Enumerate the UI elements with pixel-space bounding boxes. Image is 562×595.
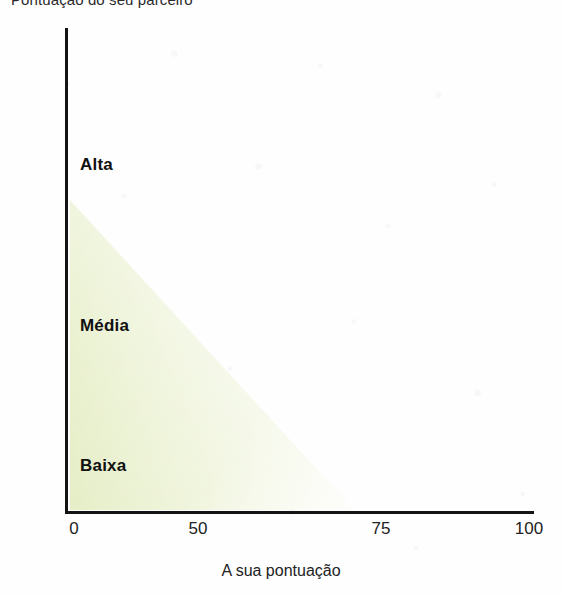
y-axis-line: [65, 28, 68, 514]
zone-label-alta: Alta: [80, 155, 113, 175]
x-tick-0: 0: [69, 519, 78, 539]
page-title: Pontuação do seu parceiro: [11, 0, 193, 8]
x-axis-title: A sua pontuação: [0, 562, 562, 580]
chart-figure: Pontuação do seu parceiro: [0, 0, 562, 595]
compatibility-zone-shading: [68, 28, 533, 512]
zone-label-baixa: Baixa: [80, 456, 126, 476]
x-tick-75: 75: [372, 519, 391, 539]
x-axis-line: [66, 511, 534, 514]
plot-area: [68, 28, 533, 512]
x-tick-100: 100: [515, 519, 543, 539]
x-tick-50: 50: [189, 519, 208, 539]
zone-label-media: Média: [80, 316, 129, 336]
